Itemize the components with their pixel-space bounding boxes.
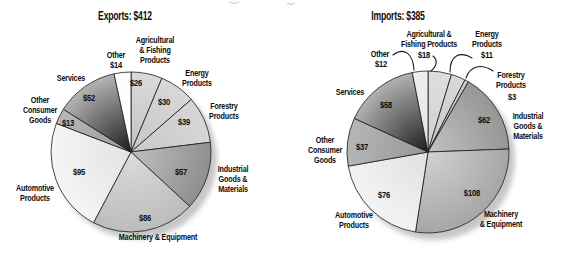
slice-label-industrial-goods-materials: Materials — [513, 131, 543, 141]
leader-line-other — [393, 51, 414, 70]
slice-label-forestry-products: Forestry — [210, 101, 238, 111]
slice-label-other-consumer-goods: Goods — [29, 115, 52, 125]
slice-label-energy-products: Energy — [475, 29, 499, 39]
trade-pie-charts-figure: Agricultural& FishingProducts$26EnergyPr… — [0, 0, 563, 254]
slice-label-forestry-products: Products — [496, 80, 526, 90]
slice-label-services: Services — [336, 87, 365, 97]
slice-value-industrial-goods-materials: $57 — [175, 166, 188, 177]
slice-label-other-consumer-goods: Goods — [314, 155, 337, 165]
slice-value-machinery-equipment: $108 — [464, 187, 481, 198]
slice-label-energy-products: Products — [472, 39, 502, 49]
slice-label-forestry-products: Forestry — [497, 70, 525, 80]
exports-title: Exports: $412 — [98, 10, 152, 23]
slice-label-machinery-equipment: Machinery & Equipment — [119, 232, 198, 242]
slice-label-automotive-products: Products — [339, 220, 369, 230]
slice-label-agricultural-fishing-products: & Fishing — [139, 45, 170, 55]
slice-label-energy-products: Energy — [185, 68, 209, 78]
leader-line-forestry-products — [466, 67, 493, 78]
slice-label-agricultural-fishing-products: Agricultural & — [406, 29, 451, 39]
leader-line-energy-products — [450, 55, 472, 72]
slice-value-energy-products: $11 — [481, 49, 493, 60]
slice-label-industrial-goods-materials: Goods & — [219, 174, 248, 184]
slice-value-other-consumer-goods: $13 — [62, 117, 75, 128]
slice-label-automotive-products: Products — [20, 193, 50, 203]
slice-label-other-consumer-goods: Consumer — [308, 145, 343, 155]
slice-label-industrial-goods-materials: Industrial — [513, 111, 544, 121]
exports-pie-chart: Agricultural& FishingProducts$26EnergyPr… — [16, 35, 248, 242]
slice-value-industrial-goods-materials: $62 — [478, 114, 491, 125]
slice-value-agricultural-fishing-products: $26 — [130, 77, 143, 88]
slice-value-services: $52 — [83, 92, 96, 103]
slice-label-agricultural-fishing-products: Products — [140, 55, 170, 65]
slice-label-other-consumer-goods: Other — [31, 95, 50, 105]
slice-label-machinery-equipment: Machinery — [484, 209, 519, 219]
slice-label-automotive-products: Automotive — [16, 183, 54, 193]
slice-value-forestry-products: $3 — [508, 91, 516, 102]
slice-value-forestry-products: $39 — [178, 116, 191, 127]
slice-label-other-consumer-goods: Consumer — [23, 105, 58, 115]
imports-pie-chart: Agricultural &Fishing Products$18EnergyP… — [308, 29, 544, 240]
slice-label-agricultural-fishing-products: Fishing Products — [401, 39, 458, 49]
slice-label-automotive-products: Automotive — [335, 210, 373, 220]
crop-artifact — [287, 3, 295, 5]
slice-value-agricultural-fishing-products: $18 — [418, 49, 431, 60]
slice-value-other-consumer-goods: $37 — [356, 141, 369, 152]
slice-label-industrial-goods-materials: Goods & — [514, 121, 543, 131]
crop-artifact — [229, 2, 239, 4]
imports-title: Imports: $385 — [371, 10, 425, 23]
slice-value-automotive-products: $76 — [378, 189, 391, 200]
slice-label-energy-products: Products — [182, 78, 212, 88]
slice-label-other-consumer-goods: Other — [316, 135, 335, 145]
slice-label-machinery-equipment: & Equipment — [480, 219, 523, 229]
pie-charts-svg: Agricultural& FishingProducts$26EnergyPr… — [0, 0, 563, 254]
slice-value-other: $14 — [110, 59, 123, 70]
slice-label-industrial-goods-materials: Industrial — [218, 164, 249, 174]
slice-label-forestry-products: Products — [209, 111, 239, 121]
slice-label-services: Services — [57, 73, 86, 83]
slice-value-automotive-products: $95 — [73, 166, 86, 177]
slice-value-other: $12 — [375, 58, 388, 69]
slice-value-services: $58 — [380, 99, 393, 110]
slice-label-agricultural-fishing-products: Agricultural — [136, 35, 174, 45]
slice-value-machinery-equipment: $86 — [139, 212, 152, 223]
slice-value-energy-products: $30 — [158, 96, 171, 107]
leader-line-agricultural-fishing-products — [431, 56, 436, 71]
slice-label-industrial-goods-materials: Materials — [218, 184, 248, 194]
